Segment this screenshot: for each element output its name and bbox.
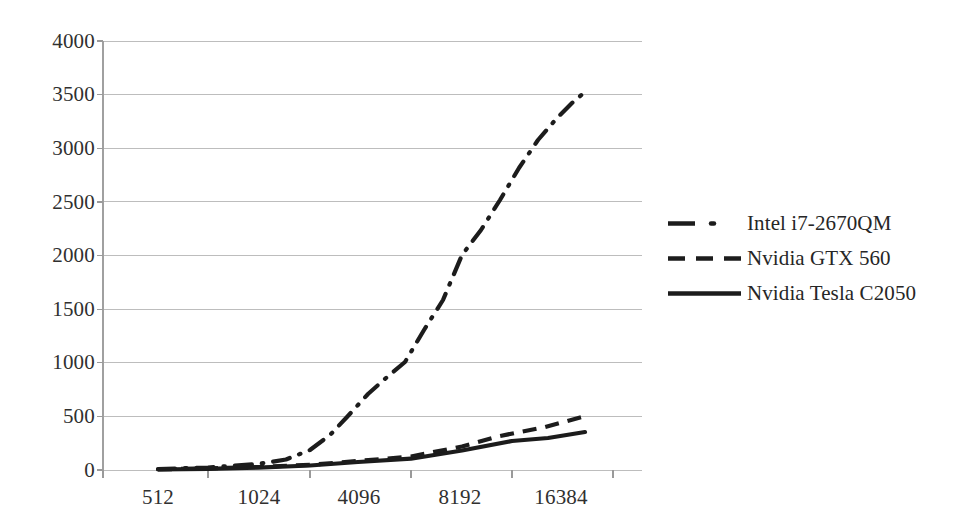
y-tick-label-3500: 3500	[35, 84, 95, 105]
legend-item-nvidia-gtx-560[interactable]: Nvidia GTX 560	[665, 241, 953, 276]
y-tick-label-0: 0	[35, 460, 95, 481]
y-tick-label-4000: 4000	[35, 31, 95, 52]
gridlines	[103, 41, 642, 470]
legend-swatch-solid-icon	[665, 276, 741, 311]
legend-label-nvidia-gtx-560: Nvidia GTX 560	[747, 246, 891, 270]
series-line-nvidia-tesla-c2050	[158, 432, 585, 470]
x-tick-label-512: 512	[103, 487, 213, 508]
legend-label-nvidia-tesla-c2050: Nvidia Tesla C2050	[747, 281, 916, 305]
line-chart: 4000 3500 3000 2500 2000 1500 1000 500 0…	[0, 0, 953, 532]
legend-swatch-dashed-icon	[665, 241, 741, 276]
y-tick-label-3000: 3000	[35, 138, 95, 159]
y-tick-label-1500: 1500	[35, 299, 95, 320]
chart-legend: Intel i7-2670QM Nvidia GTX 560 Nvidia Te…	[665, 206, 953, 311]
x-tick-label-8192: 8192	[405, 487, 515, 508]
legend-label-intel-i7-2670qm: Intel i7-2670QM	[747, 211, 891, 235]
y-tick-label-500: 500	[35, 406, 95, 427]
y-tick-label-2500: 2500	[35, 192, 95, 213]
x-tick-label-1024: 1024	[204, 487, 314, 508]
x-tick-label-4096: 4096	[304, 487, 414, 508]
legend-item-nvidia-tesla-c2050[interactable]: Nvidia Tesla C2050	[665, 276, 953, 311]
series-line-nvidia-gtx-560	[158, 416, 585, 469]
y-tick-label-2000: 2000	[35, 245, 95, 266]
legend-swatch-dash-dot-icon	[665, 206, 741, 241]
y-axis-ticks	[97, 41, 103, 470]
legend-item-intel-i7-2670qm[interactable]: Intel i7-2670QM	[665, 206, 953, 241]
x-tick-label-16384: 16384	[506, 487, 616, 508]
y-tick-label-1000: 1000	[35, 352, 95, 373]
